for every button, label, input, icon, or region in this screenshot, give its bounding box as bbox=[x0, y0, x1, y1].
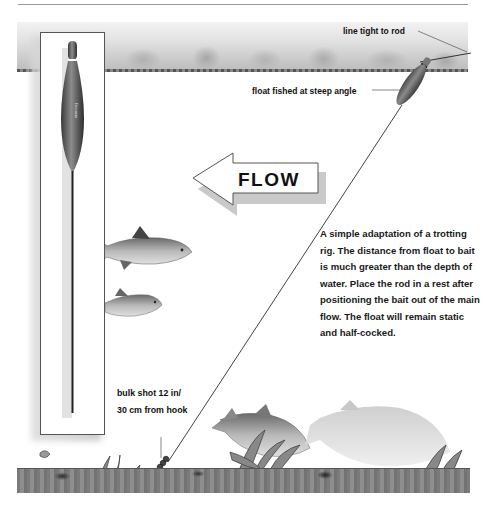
label-line-tight: line tight to rod bbox=[343, 26, 405, 36]
fish-faded bbox=[305, 400, 450, 466]
surface-float bbox=[392, 54, 436, 109]
inset-float-closeup: Drennan bbox=[40, 32, 105, 435]
float-brand: Drennan bbox=[74, 103, 79, 118]
hook-bait bbox=[40, 451, 50, 458]
float-stem bbox=[72, 171, 74, 413]
fish-upper bbox=[100, 226, 192, 270]
float-tip bbox=[68, 41, 77, 60]
bulk-shot-line1: bulk shot 12 in/ bbox=[117, 385, 187, 402]
label-bulk-shot: bulk shot 12 in/ 30 cm from hook bbox=[117, 385, 187, 419]
fish-lower bbox=[105, 288, 162, 316]
flow-label: FLOW bbox=[238, 169, 300, 190]
description-text: A simple adaptation of a trotting rig. T… bbox=[320, 226, 480, 342]
bulk-shot-line2: 30 cm from hook bbox=[117, 402, 187, 419]
flow-arrow: FLOW bbox=[193, 153, 326, 216]
leader-line-rod bbox=[418, 31, 467, 52]
label-float-angle: float fished at steep angle bbox=[252, 86, 356, 96]
river-bed bbox=[17, 468, 470, 493]
inset-float: Drennan bbox=[41, 33, 104, 434]
